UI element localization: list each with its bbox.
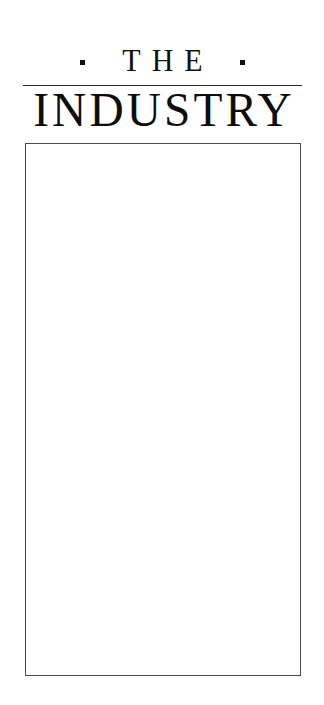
content-frame — [25, 143, 301, 676]
square-bullet-icon-right — [240, 60, 245, 65]
square-bullet-icon-left — [80, 60, 85, 65]
content-body-text — [26, 144, 300, 675]
masthead-kicker-text: THE — [111, 46, 213, 77]
masthead-title-row: INDUSTRY — [20, 88, 305, 132]
masthead-kicker-row: THE — [23, 43, 302, 79]
masthead-title-text: INDUSTRY — [30, 86, 295, 134]
page-root: THE INDUSTRY — [0, 0, 324, 705]
